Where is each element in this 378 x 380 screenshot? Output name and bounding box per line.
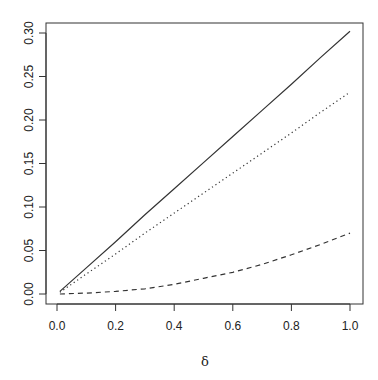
x-tick-label: 0.6 [224,319,241,333]
series-solid [60,31,350,291]
y-tick-label: 0.30 [22,21,36,45]
y-tick-label: 0.25 [22,64,36,88]
x-axis: 0.00.20.40.60.81.0 [49,304,359,333]
y-tick-label: 0.00 [22,282,36,306]
y-tick-label: 0.05 [22,238,36,262]
series-dashed [60,233,350,294]
x-tick-label: 0.2 [107,319,124,333]
y-axis: 0.000.050.100.150.200.250.30 [22,21,46,306]
x-axis-title: δ [201,354,209,369]
line-chart: 0.000.050.100.150.200.250.30 0.00.20.40.… [0,0,378,380]
x-tick-label: 0.8 [283,319,300,333]
series-lines [60,31,350,294]
y-tick-label: 0.15 [22,151,36,175]
x-tick-label: 1.0 [342,319,359,333]
series-dotted [60,92,350,292]
x-tick-label: 0.4 [166,319,183,333]
y-tick-label: 0.20 [22,108,36,132]
x-tick-label: 0.0 [49,319,66,333]
y-tick-label: 0.10 [22,195,36,219]
